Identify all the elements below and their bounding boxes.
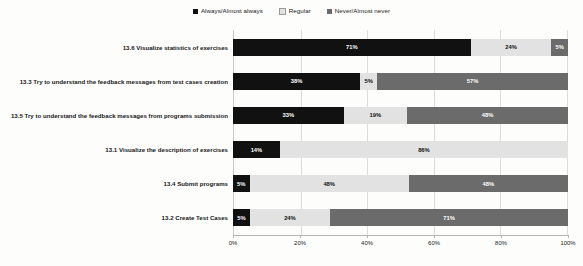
x-tick-label: 60% xyxy=(428,240,440,246)
bar-segment-never: 5% xyxy=(551,39,568,56)
bar-wrapper: 14%86% xyxy=(233,141,568,158)
bar-segment-never: 48% xyxy=(407,107,568,124)
x-tick-label: 100% xyxy=(560,240,575,246)
bar-segment-always: 14% xyxy=(233,141,280,158)
stacked-bar: 14%86% xyxy=(233,141,568,158)
stacked-bar: 71%24%5% xyxy=(233,39,568,56)
legend-entry-always: Always/Almost always xyxy=(193,8,263,14)
x-tick-mark xyxy=(300,235,301,238)
bar-wrapper: 5%24%71% xyxy=(233,209,568,226)
legend-label-always: Always/Almost always xyxy=(201,8,263,14)
x-tick-mark xyxy=(367,235,368,238)
stacked-bar: 5%24%71% xyxy=(233,209,568,226)
legend-swatch-icon-always xyxy=(193,9,198,14)
chart-row: 13.2 Create Test Cases5%24%71% xyxy=(0,201,583,235)
bar-segment-regular: 5% xyxy=(360,73,377,90)
bar-segment-always: 5% xyxy=(233,175,250,192)
category-label: 13.3 Try to understand the feedback mess… xyxy=(0,78,228,85)
x-tick-label: 40% xyxy=(361,240,373,246)
chart-legend: Always/Almost always Regular Never/Almos… xyxy=(0,8,583,15)
x-tick-label: 0% xyxy=(229,240,238,246)
bar-segment-never: 48% xyxy=(409,175,568,192)
category-label: 13.2 Create Test Cases xyxy=(0,214,228,221)
chart-row: 13.1 Visualize the description of exerci… xyxy=(0,133,583,167)
x-tick-mark xyxy=(568,235,569,238)
chart-row: 13.6 Visualize statistics of exercises71… xyxy=(0,30,583,64)
category-label: 13.6 Visualize statistics of exercises xyxy=(0,44,228,51)
legend-entry-regular: Regular xyxy=(279,8,311,15)
x-tick-label: 80% xyxy=(495,240,507,246)
stacked-bar: 5%48%48% xyxy=(233,175,568,192)
bar-wrapper: 5%48%48% xyxy=(233,175,568,192)
bar-segment-always: 38% xyxy=(233,73,360,90)
bar-segment-regular: 24% xyxy=(471,39,551,56)
stacked-bar: 33%19%48% xyxy=(233,107,568,124)
bar-segment-regular: 19% xyxy=(344,107,408,124)
bar-segment-always: 5% xyxy=(233,209,250,226)
bar-segment-always: 33% xyxy=(233,107,344,124)
bar-wrapper: 71%24%5% xyxy=(233,39,568,56)
category-label: 13.5 Try to understand the feedback mess… xyxy=(0,112,228,119)
x-tick-mark xyxy=(233,235,234,238)
bar-segment-never: 71% xyxy=(330,209,568,226)
bar-segment-always: 71% xyxy=(233,39,471,56)
x-axis-line xyxy=(233,235,568,236)
bar-wrapper: 38%5%57% xyxy=(233,73,568,90)
bar-segment-regular: 48% xyxy=(250,175,409,192)
bar-segment-regular: 24% xyxy=(250,209,330,226)
bar-wrapper: 33%19%48% xyxy=(233,107,568,124)
x-tick-mark xyxy=(434,235,435,238)
stacked-bar: 38%5%57% xyxy=(233,73,568,90)
stacked-bar-chart: Always/Almost always Regular Never/Almos… xyxy=(0,0,583,266)
legend-label-never: Never/Almost never xyxy=(335,8,390,14)
legend-entry-never: Never/Almost never xyxy=(327,8,390,14)
chart-row: 13.5 Try to understand the feedback mess… xyxy=(0,98,583,132)
x-axis: 0%20%40%60%80%100% xyxy=(233,235,568,257)
chart-row: 13.3 Try to understand the feedback mess… xyxy=(0,64,583,98)
x-tick-mark xyxy=(501,235,502,238)
category-label: 13.1 Visualize the description of exerci… xyxy=(0,146,228,153)
legend-swatch-icon-regular xyxy=(279,8,286,15)
category-label: 13.4 Submit programs xyxy=(0,180,228,187)
chart-row: 13.4 Submit programs5%48%48% xyxy=(0,167,583,201)
legend-swatch-icon-never xyxy=(327,9,332,14)
legend-label-regular: Regular xyxy=(289,8,311,14)
bar-segment-never: 57% xyxy=(377,73,568,90)
x-tick-label: 20% xyxy=(294,240,306,246)
bar-segment-regular: 86% xyxy=(280,141,568,158)
